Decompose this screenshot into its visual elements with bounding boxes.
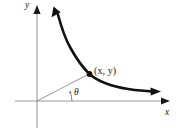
marked-point-dot xyxy=(87,71,93,77)
x-axis-arrowhead-icon xyxy=(161,98,170,105)
angle-arc-icon xyxy=(70,92,72,101)
curve-right-arrowhead-icon xyxy=(151,88,162,96)
figure-canvas: y x θ (x, y) xyxy=(0,0,183,135)
x-axis-label: x xyxy=(165,108,169,118)
y-axis-label: y xyxy=(25,1,29,11)
radius-ray-line xyxy=(37,74,89,101)
diagram-svg xyxy=(0,0,183,135)
decay-curve-path xyxy=(58,13,153,91)
y-axis-arrowhead-icon xyxy=(33,5,40,14)
theta-angle-label: θ xyxy=(74,88,79,98)
point-coordinate-label: (x, y) xyxy=(94,66,116,76)
